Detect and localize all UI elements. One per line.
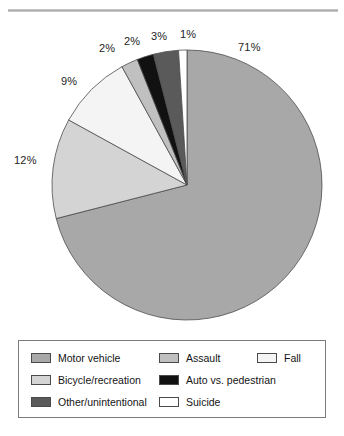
legend-item[interactable]: Fall [257, 353, 301, 364]
legend: Motor vehicleBicycle/recreationOther/uni… [18, 340, 326, 418]
legend-item[interactable]: Assault [159, 353, 220, 364]
pie-svg [0, 0, 344, 330]
legend-item-label: Other/unintentional [58, 397, 147, 408]
pie-data-label: 2% [124, 35, 140, 47]
pie-data-label: 71% [238, 41, 261, 53]
legend-swatch-icon [257, 353, 277, 363]
pie-chart-figure: 71%12%9%2%2%3%1% Motor vehicleBicycle/re… [0, 0, 344, 436]
legend-item[interactable]: Motor vehicle [31, 353, 120, 364]
pie-chart-area: 71%12%9%2%2%3%1% [0, 0, 344, 330]
legend-item-label: Fall [284, 353, 301, 364]
legend-swatch-icon [159, 353, 179, 363]
legend-item-label: Assault [186, 353, 220, 364]
legend-swatch-icon [31, 375, 51, 385]
legend-item[interactable]: Bicycle/recreation [31, 375, 141, 386]
pie-data-label: 2% [99, 42, 115, 54]
legend-grid: Motor vehicleBicycle/recreationOther/uni… [19, 341, 325, 417]
legend-item[interactable]: Auto vs. pedestrian [159, 375, 276, 386]
pie-slice-group [52, 50, 322, 320]
pie-data-label: 1% [180, 28, 196, 40]
legend-item-label: Bicycle/recreation [58, 375, 141, 386]
pie-data-label: 3% [151, 30, 167, 42]
pie-data-label: 9% [61, 75, 77, 87]
legend-swatch-icon [159, 375, 179, 385]
legend-swatch-icon [31, 353, 51, 363]
pie-data-label: 12% [14, 154, 37, 166]
legend-item-label: Auto vs. pedestrian [186, 375, 276, 386]
legend-item-label: Motor vehicle [58, 353, 120, 364]
legend-swatch-icon [31, 397, 51, 407]
legend-item-label: Suicide [186, 397, 220, 408]
legend-item[interactable]: Other/unintentional [31, 397, 147, 408]
legend-item[interactable]: Suicide [159, 397, 220, 408]
legend-swatch-icon [159, 397, 179, 407]
